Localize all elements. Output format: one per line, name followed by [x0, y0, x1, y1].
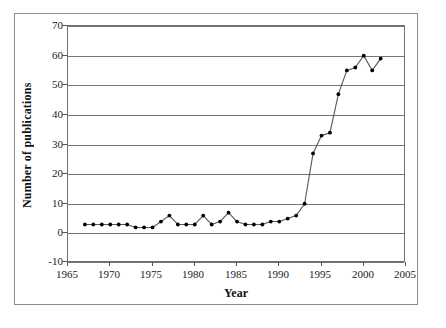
data-point — [362, 54, 366, 58]
data-point — [193, 223, 197, 227]
data-series-line — [68, 26, 406, 263]
data-point — [252, 223, 256, 227]
data-point — [134, 226, 138, 230]
data-point — [370, 69, 374, 73]
data-point — [125, 223, 129, 227]
y-axis-title: Number of publications — [18, 50, 36, 240]
data-point — [83, 223, 87, 227]
data-point — [269, 220, 273, 224]
data-point — [91, 223, 95, 227]
data-point — [176, 223, 180, 227]
chart-figure: Number of publications Year 70 60 50 40 … — [0, 0, 446, 328]
data-point — [117, 223, 121, 227]
data-point — [168, 214, 172, 218]
data-point — [345, 69, 349, 73]
data-point — [260, 223, 264, 227]
data-point — [286, 217, 290, 221]
data-point — [159, 220, 163, 224]
data-point — [151, 226, 155, 230]
x-axis-title: Year — [67, 286, 405, 301]
data-point — [244, 223, 248, 227]
data-point — [337, 92, 341, 96]
data-point — [294, 214, 298, 218]
data-point — [142, 226, 146, 230]
data-point — [100, 223, 104, 227]
data-point — [184, 223, 188, 227]
data-point — [210, 223, 214, 227]
data-point — [353, 66, 357, 70]
data-point — [303, 202, 307, 206]
data-point — [379, 57, 383, 61]
plot-area — [67, 25, 405, 262]
data-point — [218, 220, 222, 224]
data-point — [201, 214, 205, 218]
data-point — [320, 134, 324, 138]
data-point — [227, 211, 231, 215]
data-point — [311, 151, 315, 155]
data-point — [328, 131, 332, 135]
data-point — [108, 223, 112, 227]
data-point — [235, 220, 239, 224]
data-point — [277, 220, 281, 224]
